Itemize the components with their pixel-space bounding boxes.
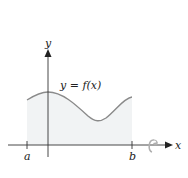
x-axis-label: x (175, 139, 182, 152)
rotation-arrow-icon (149, 140, 158, 152)
y-axis-arrow-icon (45, 49, 52, 57)
tick-label-a: a (24, 150, 31, 163)
tick-label-b: b (129, 150, 136, 163)
x-axis-arrow-icon (165, 142, 173, 149)
curve-label: y = f(x) (59, 79, 101, 92)
y-axis-label: y (44, 37, 52, 50)
diagram-canvas: y x y = f(x) a b (0, 0, 188, 178)
shaded-region (27, 92, 132, 145)
